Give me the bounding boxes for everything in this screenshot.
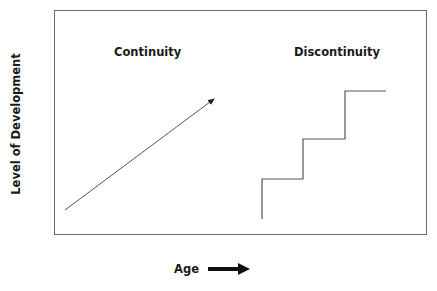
- discontinuity-steps: [262, 91, 386, 219]
- continuity-arrow-line: [65, 99, 214, 210]
- age-arrow-icon: [208, 263, 250, 275]
- diagram-graphics: [0, 0, 437, 291]
